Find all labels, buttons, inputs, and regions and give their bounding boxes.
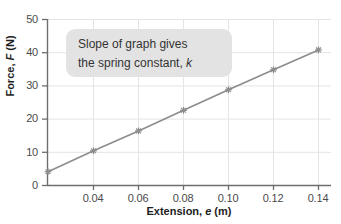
slope-callout-line-2: the spring constant, k <box>78 54 222 73</box>
ytick-label-10: 10 <box>12 147 38 158</box>
data-point-6 <box>270 66 277 73</box>
xtick-label-006: 0.06 <box>118 193 158 204</box>
data-point-7 <box>315 47 322 54</box>
slope-callout-symbol-k: k <box>186 56 192 70</box>
data-point-1 <box>45 168 52 175</box>
y-axis-ticks <box>42 20 47 186</box>
xtick-label-010: 0.10 <box>208 193 248 204</box>
y-axis-title-prefix: Force, <box>4 61 16 97</box>
slope-callout-line-2-prefix: the spring constant, <box>78 56 186 70</box>
y-axis-title-suffix: (N) <box>4 35 16 53</box>
xtick-label-004: 0.04 <box>73 193 113 204</box>
y-axis-title-symbol: F <box>4 54 16 61</box>
data-point-4 <box>180 107 187 114</box>
data-point-5 <box>225 86 232 93</box>
xtick-label-008: 0.08 <box>163 193 203 204</box>
x-axis-title: Extension, e (m) <box>47 206 331 217</box>
y-axis-title-wrapper: Force, F (N) <box>5 6 21 126</box>
slope-callout-line-1: Slope of graph gives <box>78 35 222 54</box>
xtick-label-012: 0.12 <box>253 193 293 204</box>
x-axis-title-suffix: (m) <box>211 205 231 217</box>
x-axis-title-prefix: Extension, <box>147 205 206 217</box>
chart-figure: 50 40 30 20 10 0 0.04 0.06 0.08 0.10 0.1… <box>0 0 341 224</box>
y-axis-title: Force, F (N) <box>5 6 16 126</box>
data-point-3 <box>135 128 142 135</box>
slope-callout: Slope of graph gives the spring constant… <box>66 29 232 77</box>
ytick-label-0: 0 <box>12 180 38 191</box>
xtick-label-014: 0.14 <box>298 193 338 204</box>
data-point-2 <box>90 147 97 154</box>
